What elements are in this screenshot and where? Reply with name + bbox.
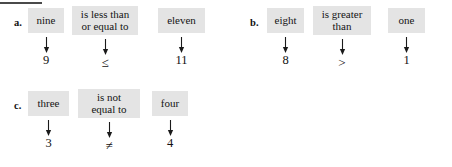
symbol-text: >	[338, 56, 345, 69]
phrase-box: one	[388, 8, 425, 33]
phrase-text: one	[399, 14, 415, 26]
phrase-box: is not equal to	[78, 89, 140, 118]
group-b-cell-3: one 1	[388, 8, 425, 67]
phrase-text: eleven	[167, 14, 196, 26]
down-arrow-icon	[44, 120, 53, 136]
phrase-text: four	[161, 97, 179, 109]
down-arrow-icon	[338, 39, 347, 55]
group-b-cell-1: eight 8	[267, 8, 304, 67]
group-a-cell-3: eleven 11	[158, 8, 205, 67]
symbol-text: 3	[45, 137, 51, 150]
phrase-box: is less than or equal to	[72, 6, 138, 35]
phrase-text: eight	[275, 14, 297, 26]
symbol-text: 8	[282, 54, 288, 67]
phrase-text-line2: than	[333, 20, 352, 32]
phrase-text: is not	[97, 91, 121, 103]
group-c-cell-3: four 4	[152, 91, 188, 150]
phrase-text: three	[38, 97, 60, 109]
group-a-cell-2: is less than or equal to ≤	[72, 6, 138, 69]
phrase-box: nine	[28, 8, 64, 33]
group-a-label: a.	[14, 17, 22, 28]
down-arrow-icon	[177, 37, 186, 53]
symbol-text: ≠	[105, 139, 112, 152]
down-arrow-icon	[101, 39, 110, 55]
phrase-text-line2: or equal to	[81, 20, 128, 32]
group-b-cell-2: is greater than >	[313, 6, 371, 69]
symbol-text: 9	[43, 54, 49, 67]
symbol-text: 1	[403, 54, 409, 67]
phrase-text: is greater	[322, 8, 363, 20]
down-arrow-icon	[105, 122, 114, 138]
group-a-cell-1: nine 9	[28, 8, 64, 67]
top-rule-divider	[0, 2, 42, 4]
phrase-box: eleven	[158, 8, 205, 33]
symbol-text: 11	[175, 54, 187, 67]
phrase-box: four	[152, 91, 188, 116]
group-c-cell-2: is not equal to ≠	[78, 89, 140, 152]
phrase-box: is greater than	[313, 6, 371, 35]
symbol-text: ≤	[101, 56, 108, 69]
math-translation-figure: a. nine 9 is less than or equal to ≤	[0, 0, 452, 167]
group-b-label: b.	[250, 17, 259, 28]
group-c-label: c.	[14, 100, 22, 111]
symbol-text: 4	[167, 137, 173, 150]
down-arrow-icon	[166, 120, 175, 136]
phrase-text: nine	[37, 14, 56, 26]
down-arrow-icon	[402, 37, 411, 53]
phrase-box: eight	[267, 8, 304, 33]
phrase-text-line2: equal to	[91, 103, 126, 115]
phrase-box: three	[28, 91, 69, 116]
down-arrow-icon	[281, 37, 290, 53]
down-arrow-icon	[42, 37, 51, 53]
group-c-cell-1: three 3	[28, 91, 69, 150]
phrase-text: is less than	[81, 8, 129, 20]
